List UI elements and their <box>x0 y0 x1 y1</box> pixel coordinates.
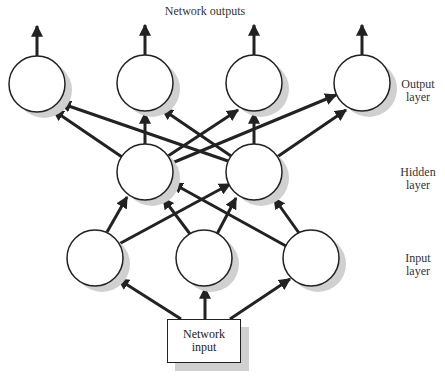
hidden-layer-label: Hidden layer <box>395 166 441 192</box>
output-layer-label-line2: layer <box>395 91 441 104</box>
output-node-4 <box>334 55 390 111</box>
diagram-title: Network outputs <box>150 5 260 18</box>
hidden-node-1 <box>117 144 173 200</box>
output-node-1 <box>9 56 65 112</box>
input-node-1 <box>67 230 123 286</box>
output-arrows <box>37 25 362 56</box>
network-input-line2: input <box>192 341 217 354</box>
network-input-box: Network input <box>167 319 241 363</box>
output-node-2 <box>117 55 173 111</box>
input-layer-label: Input layer <box>395 252 441 278</box>
hidden-to-output-edges <box>53 95 346 163</box>
input-node-3 <box>283 230 339 286</box>
hidden-layer-label-line2: layer <box>395 179 441 192</box>
output-layer-label: Output layer <box>395 78 441 104</box>
output-node-3 <box>226 55 282 111</box>
hidden-node-2 <box>226 144 282 200</box>
input-layer-label-line2: layer <box>395 265 441 278</box>
input-node-2 <box>176 230 232 286</box>
